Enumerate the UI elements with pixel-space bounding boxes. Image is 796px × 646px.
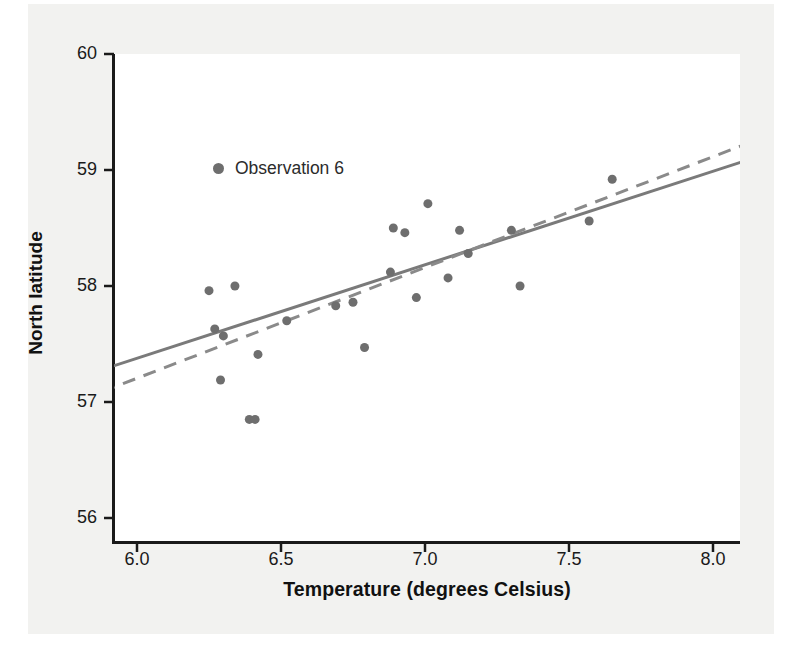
data-point [516, 282, 525, 291]
data-point [282, 316, 291, 325]
y-axis-title: North latitude [25, 193, 47, 393]
data-point [585, 217, 594, 226]
data-point [360, 343, 369, 352]
data-point [331, 301, 340, 310]
data-point [253, 350, 262, 359]
data-point [412, 293, 421, 302]
legend-label-observation: Observation 6 [235, 158, 344, 179]
data-point [507, 226, 516, 235]
data-point [455, 226, 464, 235]
y-tick-label: 56 [57, 507, 97, 528]
x-tick-label: 7.0 [395, 549, 455, 570]
data-point [464, 249, 473, 258]
y-tick-label: 59 [57, 159, 97, 180]
data-point [444, 273, 453, 282]
y-tick-label: 58 [57, 275, 97, 296]
x-tick-label: 6.5 [251, 549, 311, 570]
data-point [230, 282, 239, 291]
data-point [219, 331, 228, 340]
data-point [216, 375, 225, 384]
data-point [210, 324, 219, 333]
data-point [386, 268, 395, 277]
data-point [423, 199, 432, 208]
x-axis-title: Temperature (degrees Celsius) [137, 578, 717, 601]
data-point [349, 298, 358, 307]
data-point [400, 228, 409, 237]
legend-marker-icon [213, 163, 224, 174]
x-tick-label: 7.5 [539, 549, 599, 570]
y-tick-label: 57 [57, 391, 97, 412]
figure-root: Observation 6 Temperature (degrees Celsi… [0, 0, 796, 646]
data-point [608, 175, 617, 184]
plot-area-background [113, 54, 740, 542]
data-point [389, 224, 398, 233]
data-point [251, 415, 260, 424]
x-tick-label: 8.0 [683, 549, 743, 570]
y-tick-label: 60 [57, 43, 97, 64]
x-tick-label: 6.0 [107, 549, 167, 570]
legend: Observation 6 [213, 158, 344, 179]
data-point [205, 286, 214, 295]
